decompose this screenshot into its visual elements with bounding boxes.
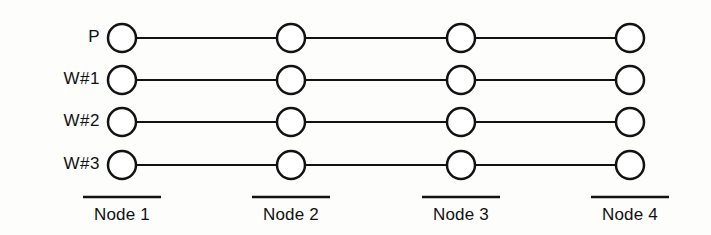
row-label: P [88,27,100,46]
node-circle [616,151,644,179]
node-circle [447,24,475,52]
node-label: Node 3 [433,205,489,224]
node-circles-group [108,24,644,179]
row-label: W#3 [64,154,100,173]
node-circle [277,24,305,52]
row-labels-group: PW#1W#2W#3 [64,27,100,173]
row-label: W#2 [64,111,100,130]
node-circle [108,66,136,94]
row-label: W#1 [64,69,100,88]
node-circle [277,66,305,94]
node-circle [447,151,475,179]
node-circle [447,108,475,136]
node-circle [108,24,136,52]
node-labels-group: Node 1Node 2Node 3Node 4 [94,205,658,224]
node-circle [616,66,644,94]
node-label: Node 1 [94,205,150,224]
node-circle [616,108,644,136]
node-circle [108,151,136,179]
lane-diagram: PW#1W#2W#3 Node 1Node 2Node 3Node 4 [0,0,711,235]
connection-lines-group [136,38,616,165]
node-circle [108,108,136,136]
node-circle [447,66,475,94]
node-circle [277,151,305,179]
diagram-canvas: PW#1W#2W#3 Node 1Node 2Node 3Node 4 [0,0,711,235]
node-label: Node 2 [263,205,319,224]
node-circle [277,108,305,136]
node-label: Node 4 [602,205,658,224]
node-circle [616,24,644,52]
